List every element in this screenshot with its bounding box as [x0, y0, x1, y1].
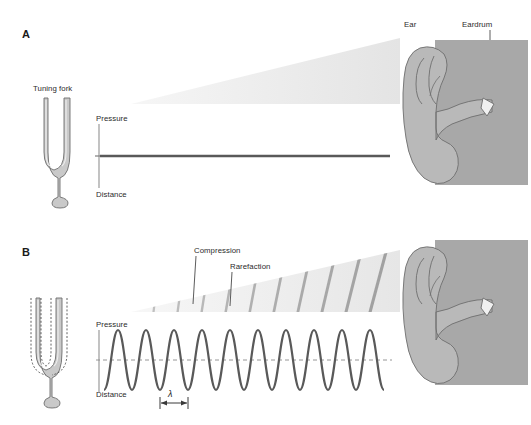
- compression-leader-line: [193, 256, 196, 304]
- sound-wave-figure: A Tuning fork Pressure Distance Ear Eard…: [0, 0, 531, 425]
- panel-b: B Compression Rarefaction Pressure Dista…: [0, 212, 531, 425]
- tuning-fork-a: [44, 98, 70, 208]
- panel-a: A Tuning fork Pressure Distance Ear Eard…: [0, 0, 531, 212]
- panel-b-graphics: [0, 212, 531, 425]
- tuning-fork-b: [31, 298, 67, 408]
- panel-a-graphics: [0, 0, 531, 213]
- wavelength-indicator: [160, 397, 188, 409]
- sound-wedge-b: [129, 250, 400, 316]
- sound-wedge-a: [131, 38, 400, 104]
